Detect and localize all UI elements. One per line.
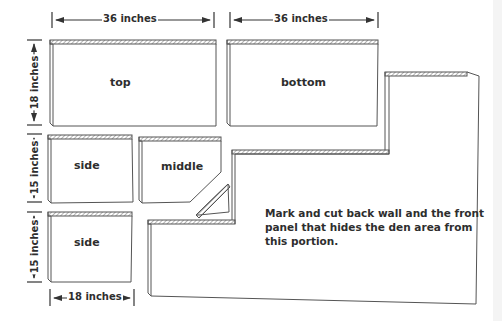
panel-bottom-label: bottom [281,76,326,89]
diagram-canvas: 36 inches 36 inches 18 inches 15 inches … [0,0,502,321]
panel-side2-label: side [74,236,100,249]
side2-height-label: 15 inches [29,219,40,275]
panel-side1-label: side [74,159,100,172]
cut-instruction-note: Mark and cut back wall and the front pan… [265,206,485,248]
panel-middle-label: middle [161,160,203,173]
top-height-label: 18 inches [29,55,40,111]
bottom-width-label: 36 inches [273,13,329,24]
side1-height-label: 15 inches [29,140,40,196]
side-width-label: 18 inches [67,291,123,302]
panel-top-label: top [110,76,131,89]
top-width-label: 36 inches [102,13,158,24]
